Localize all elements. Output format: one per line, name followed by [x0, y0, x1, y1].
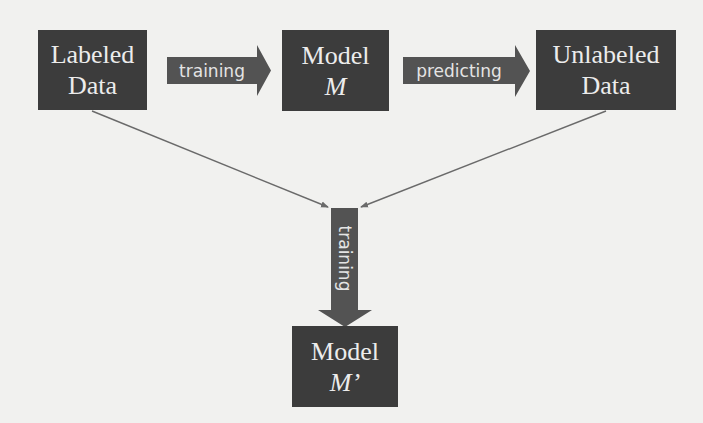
- model-m-prime-line1: Model: [311, 336, 379, 367]
- labeled-data-node: Labeled Data: [38, 30, 147, 110]
- model-m-line1: Model: [302, 40, 370, 71]
- unlabeled-data-line2: Data: [581, 70, 630, 101]
- labeled-data-line1: Labeled: [51, 39, 135, 70]
- unlabeled-data-line1: Unlabeled: [553, 39, 660, 70]
- diagram-canvas: Labeled Data Model M Unlabeled Data Mode…: [0, 0, 703, 423]
- unlabeled-data-node: Unlabeled Data: [536, 30, 676, 110]
- connector-line-labeled-data: [92, 111, 328, 207]
- training-label-vertical: training: [332, 209, 359, 309]
- model-m-prime-node: Model M’: [292, 326, 398, 407]
- labeled-data-line2: Data: [68, 70, 117, 101]
- predicting-label: predicting: [403, 57, 515, 84]
- training-label-horizontal: training: [167, 57, 257, 84]
- connector-line-unlabeled-data: [361, 111, 606, 207]
- model-m-symbol: M: [325, 71, 347, 102]
- model-m-prime-symbol: M’: [330, 367, 360, 398]
- model-m-node: Model M: [282, 30, 389, 111]
